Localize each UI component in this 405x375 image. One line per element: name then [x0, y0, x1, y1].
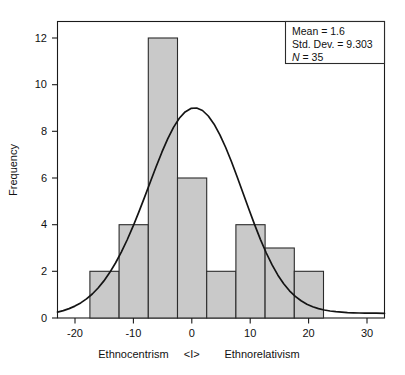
- x-tick-group: 0: [189, 318, 195, 339]
- y-tick-group: 8: [41, 125, 58, 137]
- histogram-chart: 0 2 4 6 8 10 12 Frequency: [0, 0, 405, 375]
- y-tick-label: 0: [41, 312, 47, 324]
- y-axis-title: Frequency: [7, 144, 19, 196]
- y-axis-ticks: 0 2 4 6 8 10 12: [35, 32, 58, 324]
- y-tick-group: 6: [41, 172, 58, 184]
- y-tick-label: 12: [35, 32, 47, 44]
- x-tick-group: 20: [302, 318, 314, 339]
- x-tick-group: -20: [67, 318, 83, 339]
- stat-n: N = 35: [292, 51, 323, 63]
- x-tick-label: 20: [302, 327, 314, 339]
- y-tick-label: 2: [41, 265, 47, 277]
- histogram-figure: 0 2 4 6 8 10 12 Frequency: [0, 0, 405, 375]
- x-tick-label: -20: [67, 327, 83, 339]
- bar: [294, 271, 323, 318]
- x-tick-label: 10: [244, 327, 256, 339]
- x-tick-group: 30: [361, 318, 373, 339]
- bar: [90, 271, 119, 318]
- x-tick-label: 30: [361, 327, 373, 339]
- stat-mean: Mean = 1.6: [292, 25, 345, 37]
- statistics-box: Mean = 1.6 Std. Dev. = 9.303 N = 35: [286, 22, 385, 64]
- stat-n-value: = 35: [300, 51, 324, 63]
- y-tick-group: 4: [41, 218, 58, 230]
- y-tick-label: 4: [41, 218, 47, 230]
- x-tick-label: 0: [189, 327, 195, 339]
- bar: [178, 178, 207, 318]
- stat-std-dev: Std. Dev. = 9.303: [292, 38, 373, 50]
- x-tick-group: -10: [125, 318, 141, 339]
- bar: [207, 271, 236, 318]
- y-tick-label: 8: [41, 125, 47, 137]
- x-tick-label: -10: [125, 327, 141, 339]
- y-tick-group: 12: [35, 32, 58, 44]
- y-tick-group: 0: [41, 312, 58, 324]
- annotation-midpoint: <I>: [184, 348, 200, 360]
- y-tick-group: 2: [41, 265, 58, 277]
- y-tick-label: 10: [35, 78, 47, 90]
- bar: [119, 225, 148, 318]
- x-axis-ticks: -20 -10 0 10 20 30: [67, 318, 373, 339]
- annotation-ethnorelativism: Ethnorelativism: [224, 348, 299, 360]
- x-tick-group: 10: [244, 318, 256, 339]
- y-tick-group: 10: [35, 78, 58, 90]
- y-tick-label: 6: [41, 172, 47, 184]
- annotation-ethnocentrism: Ethnocentrism: [98, 348, 168, 360]
